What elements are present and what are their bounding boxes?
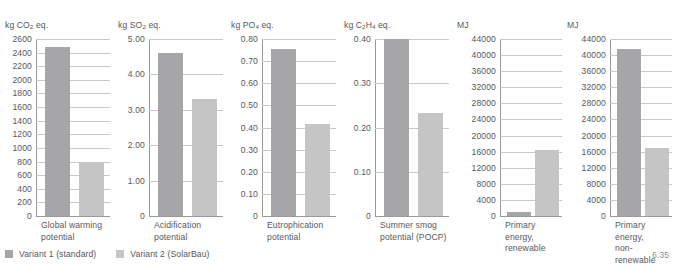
chart-panel-3: kg PO4 eq.0.800.700.600.500.400.300.200.… [226,0,339,240]
bar-group [376,39,449,216]
y-tick-label: 0.40 [227,124,258,133]
bar-variant-1 [384,39,409,216]
y-tick-label: 1.00 [114,177,145,186]
legend-label: Variant 2 (SolarBau) [130,249,209,259]
y-tick-label: 0 [563,212,606,221]
y-tick-label: 2200 [1,62,32,71]
y-tick-label: 44000 [563,35,606,44]
y-tick-label: 2600 [1,35,32,44]
bar-variant-1 [507,212,531,216]
series-1-swatch [5,250,13,258]
y-tick-label: 24000 [563,115,606,124]
bar-group [611,39,672,216]
y-tick-label: 12000 [563,164,606,173]
y-tick-label: 0.30 [227,146,258,155]
y-tick-label: 16000 [563,148,606,157]
y-tick-label: 1600 [1,103,32,112]
y-tick-label: 2.00 [114,141,145,150]
y-tick-label: 2000 [1,76,32,85]
y-tick-label: 200 [1,198,32,207]
y-tick-label: 32000 [563,83,606,92]
y-tick-label: 1400 [1,117,32,126]
y-tick-label: 5.00 [114,35,145,44]
y-axis-unit-label: kg PO4 eq. [231,20,274,31]
y-tick-label: 4000 [453,196,496,205]
bar-group [150,39,223,216]
bar-variant-1 [617,49,641,216]
y-tick-label: 40000 [453,51,496,60]
y-tick-label: 36000 [563,67,606,76]
plot-area: 4400040000360003200028000240002000016000… [500,39,562,217]
bar-variant-2 [535,150,559,216]
y-axis-unit-label: MJ [567,20,579,30]
y-tick-label: 28000 [453,99,496,108]
bar-variant-2 [645,148,669,216]
chart-panel-group: kg CO2 eq.260024002200200018001600140012… [0,0,673,240]
category-label: Acidification potential [154,220,201,243]
bar-group [263,39,336,216]
category-label: Primary energy, renewable [505,220,562,255]
plot-area: 0.800.700.600.500.400.300.200.100 [262,39,336,217]
y-tick-label: 0 [114,212,145,221]
chart-panel-6: MJ44000400003600032000280002400020000160… [562,0,673,240]
bar-group [37,39,110,216]
y-axis-unit-label: MJ [457,20,469,30]
plot-area: 5.004.003.002.001.000 [149,39,223,217]
y-tick-label: 0.10 [340,168,371,177]
y-tick-label: 8000 [453,180,496,189]
category-label: Eutrophication potential [267,220,323,243]
y-tick-label: 20000 [453,132,496,141]
legend-item-1[interactable]: Variant 1 (standard) [5,249,96,259]
series-2-swatch [116,250,124,258]
y-tick-label: 16000 [453,148,496,157]
y-tick-label: 8000 [563,180,606,189]
bar-variant-1 [45,47,70,217]
bar-variant-2 [192,99,217,216]
bar-variant-1 [271,49,296,216]
legend-label: Variant 1 (standard) [19,249,96,259]
figure-number: 6.35 [652,251,669,261]
y-tick-label: 0 [227,212,258,221]
y-tick-label: 0.30 [340,79,371,88]
plot-area: 0.400.300.200.100 [375,39,449,217]
y-tick-label: 400 [1,185,32,194]
bar-group [501,39,562,216]
chart-panel-1: kg CO2 eq.260024002200200018001600140012… [0,0,113,240]
y-tick-label: 32000 [453,83,496,92]
bar-variant-2 [418,113,443,216]
y-tick-label: 4000 [563,196,606,205]
y-tick-label: 0 [453,212,496,221]
y-tick-label: 0.60 [227,79,258,88]
y-tick-label: 0 [1,212,32,221]
y-tick-label: 4.00 [114,70,145,79]
y-tick-label: 0.80 [227,35,258,44]
chart-panel-2: kg SO2 eq.5.004.003.002.001.000Acidifica… [113,0,226,240]
y-tick-label: 0.10 [227,190,258,199]
y-tick-label: 1000 [1,144,32,153]
y-tick-label: 40000 [563,51,606,60]
y-axis-unit-label: kg C2H4 eq. [344,20,390,31]
y-tick-label: 24000 [453,115,496,124]
figure-legend: Variant 1 (standard)Variant 2 (SolarBau) [5,249,210,259]
y-tick-label: 0.40 [340,35,371,44]
y-tick-label: 0 [340,212,371,221]
category-label: Global warming potential [41,220,102,243]
y-tick-label: 0.20 [227,168,258,177]
y-tick-label: 20000 [563,132,606,141]
plot-area: 4400040000360003200028000240002000016000… [610,39,672,217]
y-tick-label: 44000 [453,35,496,44]
y-tick-label: 600 [1,171,32,180]
y-tick-label: 800 [1,158,32,167]
figure-lca-comparison: kg CO2 eq.260024002200200018001600140012… [0,0,673,266]
y-tick-label: 2400 [1,49,32,58]
plot-area: 2600240022002000180016001400120010008006… [36,39,110,217]
y-tick-label: 12000 [453,164,496,173]
y-tick-label: 0.20 [340,124,371,133]
y-tick-label: 28000 [563,99,606,108]
legend-item-2[interactable]: Variant 2 (SolarBau) [116,249,209,259]
bar-variant-1 [158,53,183,216]
chart-panel-4: kg C2H4 eq.0.400.300.200.100Summer smog … [339,0,452,240]
y-axis-unit-label: kg SO2 eq. [118,20,161,31]
chart-panel-5: MJ44000400003600032000280002400020000160… [452,0,562,240]
bar-variant-2 [79,162,104,216]
